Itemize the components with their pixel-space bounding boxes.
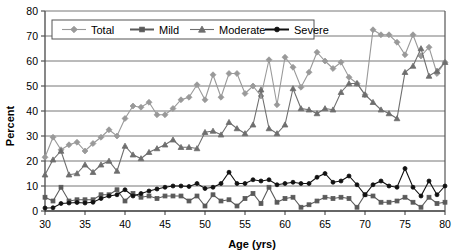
data-point-circle: [211, 185, 215, 189]
data-point-square: [411, 200, 415, 204]
data-point-circle: [251, 178, 255, 182]
data-point-square: [51, 199, 55, 203]
y-tick-label: 0: [32, 205, 38, 217]
data-point-circle: [387, 184, 391, 188]
data-point-square: [59, 185, 63, 189]
data-point-diamond: [402, 52, 408, 58]
data-point-square: [259, 202, 263, 206]
chart-legend: TotalMildModerateSevere: [52, 20, 329, 39]
data-point-triangle: [410, 63, 416, 68]
data-point-square: [371, 194, 375, 198]
data-point-circle: [443, 184, 447, 188]
data-point-square: [283, 197, 287, 201]
data-point-diamond: [266, 57, 272, 63]
y-tick-label: 20: [26, 155, 38, 167]
data-point-circle: [403, 167, 407, 171]
x-tick-label: 60: [279, 218, 291, 230]
data-point-circle: [67, 201, 71, 205]
data-point-circle: [347, 174, 351, 178]
data-point-square: [171, 194, 175, 198]
x-tick-label: 70: [359, 218, 371, 230]
data-point-diamond: [66, 142, 72, 148]
legend-label: Total: [91, 24, 114, 36]
data-point-square: [323, 195, 327, 199]
data-point-diamond: [122, 116, 128, 122]
data-point-circle: [139, 192, 143, 196]
data-point-square: [219, 199, 223, 203]
data-point-circle: [219, 182, 223, 186]
data-point-circle: [315, 175, 319, 179]
x-axis-ticks: 3035404550556065707580: [39, 211, 451, 230]
data-point-circle: [59, 202, 63, 206]
data-point-triangle: [82, 162, 88, 167]
data-point-circle: [299, 182, 303, 186]
x-tick-label: 30: [39, 218, 51, 230]
data-point-square: [227, 198, 231, 202]
data-point-circle: [99, 197, 103, 201]
data-point-square: [331, 197, 335, 201]
data-point-triangle: [298, 106, 304, 111]
data-point-circle: [363, 193, 367, 197]
x-tick-label: 80: [439, 218, 451, 230]
data-point-diamond: [210, 72, 216, 78]
data-point-circle: [115, 193, 119, 197]
data-point-circle: [163, 185, 167, 189]
data-point-diamond: [234, 71, 240, 77]
x-tick-label: 55: [239, 218, 251, 230]
data-point-square: [315, 199, 319, 203]
data-point-circle: [203, 187, 207, 191]
data-point-triangle: [162, 142, 168, 147]
data-point-square: [251, 192, 255, 196]
data-point-circle: [43, 206, 47, 210]
chart-container: 01020304050607080 3035404550556065707580…: [0, 0, 458, 252]
data-point-square: [140, 27, 145, 32]
data-point-square: [195, 194, 199, 198]
data-point-circle: [155, 187, 159, 191]
data-point-diamond: [146, 99, 152, 105]
y-tick-label: 40: [26, 105, 38, 117]
data-point-circle: [83, 201, 87, 205]
data-point-circle: [131, 194, 135, 198]
data-point-square: [443, 200, 447, 204]
data-point-circle: [435, 193, 439, 197]
legend-label: Moderate: [219, 24, 265, 36]
data-point-circle: [227, 170, 231, 174]
data-point-circle: [427, 179, 431, 183]
data-point-diamond: [186, 94, 192, 100]
data-point-triangle: [226, 119, 232, 124]
data-point-triangle: [394, 116, 400, 121]
data-point-circle: [107, 194, 111, 198]
data-point-circle: [91, 200, 95, 204]
data-point-circle: [379, 179, 383, 183]
data-point-diamond: [194, 82, 200, 88]
y-axis-ticks: 01020304050607080: [26, 5, 45, 217]
data-point-diamond: [202, 97, 208, 103]
data-point-triangle: [322, 106, 328, 111]
data-point-square: [275, 200, 279, 204]
x-axis-label: Age (yrs): [228, 238, 276, 250]
data-point-diamond: [154, 112, 160, 118]
data-point-triangle: [170, 137, 176, 142]
y-tick-label: 70: [26, 30, 38, 42]
data-point-triangle: [146, 149, 152, 154]
data-point-diamond: [226, 71, 232, 77]
data-point-triangle: [122, 143, 128, 148]
data-point-square: [211, 193, 215, 197]
data-point-square: [379, 200, 383, 204]
data-point-square: [403, 195, 407, 199]
data-point-square: [163, 194, 167, 198]
data-point-square: [307, 203, 311, 207]
data-point-circle: [283, 182, 287, 186]
x-tick-label: 65: [319, 218, 331, 230]
data-point-circle: [355, 183, 359, 187]
data-point-triangle: [266, 126, 272, 131]
data-point-circle: [275, 183, 279, 187]
x-tick-label: 40: [119, 218, 131, 230]
data-point-diamond: [218, 94, 224, 100]
data-point-square: [339, 195, 343, 199]
data-point-triangle: [154, 146, 160, 151]
data-point-square: [243, 197, 247, 201]
data-point-square: [427, 195, 431, 199]
data-point-circle: [331, 180, 335, 184]
data-point-circle: [123, 188, 127, 192]
